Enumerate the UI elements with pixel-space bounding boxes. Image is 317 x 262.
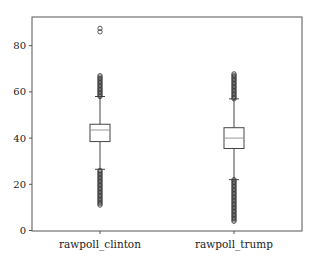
y-tick-label: 40 <box>13 133 26 144</box>
y-tick-label: 0 <box>20 225 26 236</box>
y-tick-label: 60 <box>13 86 26 97</box>
boxes <box>90 26 244 223</box>
plot-frame <box>32 17 302 231</box>
iqr-box <box>90 124 110 141</box>
y-tick-label: 80 <box>13 40 26 51</box>
box-rawpoll-clinton <box>90 26 110 207</box>
box-rawpoll-trump <box>224 72 244 224</box>
y-tick-label: 20 <box>13 179 26 190</box>
y-axis: 020406080 <box>13 40 32 236</box>
x-axis: rawpoll_clintonrawpoll_trump <box>59 231 273 251</box>
x-tick-label: rawpoll_clinton <box>59 238 141 251</box>
x-tick-label: rawpoll_trump <box>195 238 273 251</box>
box-plot-chart: 020406080 rawpoll_clintonrawpoll_trump <box>0 0 317 262</box>
